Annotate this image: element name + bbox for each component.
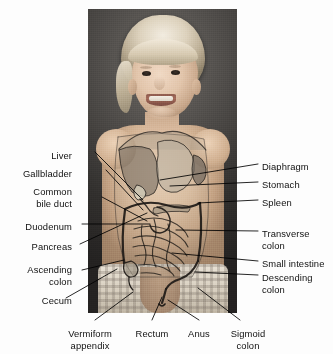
label-rectum: Rectum bbox=[136, 328, 169, 340]
vermiform-appendix bbox=[129, 277, 133, 290]
label-anus-line-1: Anus bbox=[188, 328, 210, 340]
label-stomach-line-1: Stomach bbox=[262, 179, 300, 191]
label-duodenum-line-1: Duodenum bbox=[25, 221, 72, 233]
label-vermiform-appendix-line-2: appendix bbox=[68, 340, 112, 352]
label-spleen: Spleen bbox=[262, 197, 292, 209]
label-pancreas-line-1: Pancreas bbox=[32, 241, 72, 253]
label-spleen-line-1: Spleen bbox=[262, 197, 292, 209]
label-descending-colon: Descendingcolon bbox=[262, 272, 313, 295]
label-transverse-colon-line-2: colon bbox=[262, 240, 310, 252]
label-rectum-line-1: Rectum bbox=[136, 328, 169, 340]
label-vermiform-appendix: Vermiformappendix bbox=[68, 328, 112, 351]
label-liver-line-1: Liver bbox=[51, 150, 72, 162]
label-diaphragm: Diaphragm bbox=[262, 161, 309, 173]
label-anus: Anus bbox=[188, 328, 210, 340]
label-transverse-colon: Transversecolon bbox=[262, 228, 310, 251]
label-cecum-line-1: Cecum bbox=[42, 295, 72, 307]
label-ascending-colon: Ascendingcolon bbox=[27, 264, 72, 287]
label-sigmoid-colon-line-2: colon bbox=[231, 340, 266, 352]
cecum bbox=[124, 261, 138, 277]
label-ascending-colon-line-2: colon bbox=[27, 276, 72, 288]
label-descending-colon-line-1: Descending bbox=[262, 272, 313, 284]
label-pancreas: Pancreas bbox=[32, 241, 72, 253]
subject-photograph bbox=[88, 9, 237, 313]
label-gallbladder-line-1: Gallbladder bbox=[23, 168, 72, 180]
anus bbox=[159, 304, 165, 306]
label-common-bile-duct-line-2: bile duct bbox=[33, 198, 72, 210]
label-vermiform-appendix-line-1: Vermiform bbox=[68, 328, 112, 340]
label-descending-colon-line-2: colon bbox=[262, 284, 313, 296]
digestive-system-overlay bbox=[88, 9, 237, 313]
rectum bbox=[162, 289, 166, 303]
label-duodenum: Duodenum bbox=[25, 221, 72, 233]
anatomy-figure: LiverGallbladderCommonbile ductDuodenumP… bbox=[0, 0, 333, 354]
label-liver: Liver bbox=[51, 150, 72, 162]
label-sigmoid-colon: Sigmoidcolon bbox=[231, 328, 266, 351]
label-small-intestine-line-1: Small intestine bbox=[262, 258, 324, 270]
label-common-bile-duct-line-1: Common bbox=[33, 186, 72, 198]
label-transverse-colon-line-1: Transverse bbox=[262, 228, 310, 240]
label-cecum: Cecum bbox=[42, 295, 72, 307]
label-sigmoid-colon-line-1: Sigmoid bbox=[231, 328, 266, 340]
label-small-intestine: Small intestine bbox=[262, 258, 324, 270]
label-diaphragm-line-1: Diaphragm bbox=[262, 161, 309, 173]
label-gallbladder: Gallbladder bbox=[23, 168, 72, 180]
label-ascending-colon-line-1: Ascending bbox=[27, 264, 72, 276]
label-stomach: Stomach bbox=[262, 179, 300, 191]
label-common-bile-duct: Commonbile duct bbox=[33, 186, 72, 209]
